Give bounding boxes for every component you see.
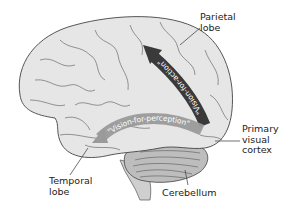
label-cerebellum: Cerebellum bbox=[162, 188, 216, 199]
label-temporal-lobe: Temporal lobe bbox=[49, 176, 93, 197]
label-primary-visual-cortex: Primary visual cortex bbox=[242, 124, 279, 156]
cerebrum bbox=[19, 17, 232, 158]
brain-diagram: "Vision-for-action" "Vision-for-percepti… bbox=[0, 0, 287, 216]
label-parietal-lobe: Parietal lobe bbox=[200, 12, 236, 33]
brain-illustration: "Vision-for-action" "Vision-for-percepti… bbox=[0, 0, 287, 216]
